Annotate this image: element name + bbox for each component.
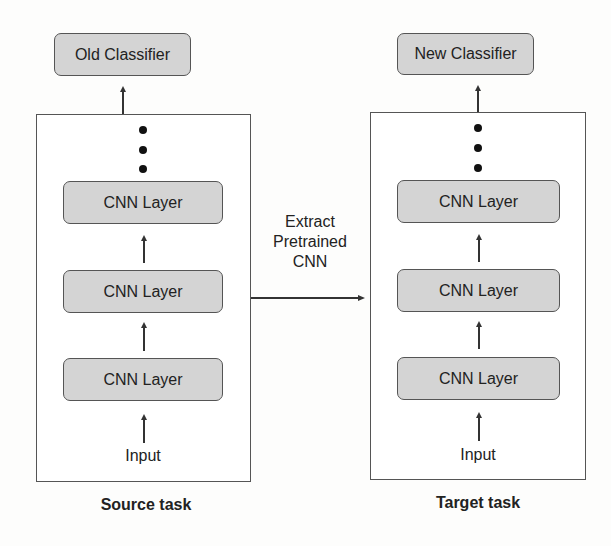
arrow-up [478,326,480,349]
layer-label: CNN Layer [103,194,182,212]
ellipsis-dot-icon [474,144,482,152]
old-classifier-label: Old Classifier [75,46,170,64]
transfer-label-line: Pretrained [255,232,365,252]
layer-label: CNN Layer [103,283,182,301]
ellipsis-dot-icon [474,124,482,132]
ellipsis-dot-icon [139,146,147,154]
arrow-up [478,417,480,441]
target-cnn-layer-1: CNN Layer [397,357,560,400]
transfer-label-line: Extract [255,212,365,232]
layer-label: CNN Layer [103,371,182,389]
arrowhead-up-icon [476,321,482,327]
source-task-caption: Source task [76,496,216,514]
new-classifier-box: New Classifier [397,33,534,75]
target-output-arrow [477,89,479,112]
arrowhead-up-icon [141,235,147,241]
source-input-label: Input [93,447,193,465]
arrowhead-up-icon [141,322,147,328]
transfer-learning-diagram: Old Classifier CNN Layer CNN Layer CNN L… [0,0,611,546]
target-output-arrowhead [475,85,481,91]
target-input-label: Input [428,446,528,464]
arrow-up [478,239,480,262]
target-cnn-layer-3: CNN Layer [397,180,560,223]
old-classifier-box: Old Classifier [54,33,191,76]
arrowhead-right-icon [358,295,365,301]
arrow-up [143,419,145,443]
source-output-arrow [122,90,124,114]
source-cnn-layer-1: CNN Layer [63,358,223,401]
source-output-arrowhead [120,86,126,92]
arrow-up [143,327,145,351]
target-task-caption: Target task [408,494,548,512]
ellipsis-dot-icon [139,165,147,173]
arrow-up [143,240,145,263]
transfer-label-line: CNN [255,252,365,272]
layer-label: CNN Layer [439,282,518,300]
ellipsis-dot-icon [474,164,482,172]
layer-label: CNN Layer [439,370,518,388]
source-cnn-layer-2: CNN Layer [63,270,223,313]
new-classifier-label: New Classifier [414,45,516,63]
transfer-label: Extract Pretrained CNN [255,212,365,272]
transfer-arrow [251,297,359,299]
ellipsis-dot-icon [139,126,147,134]
source-cnn-layer-3: CNN Layer [63,181,223,224]
target-cnn-layer-2: CNN Layer [397,269,560,312]
arrowhead-up-icon [141,414,147,420]
layer-label: CNN Layer [439,193,518,211]
arrowhead-up-icon [476,234,482,240]
arrowhead-up-icon [476,412,482,418]
